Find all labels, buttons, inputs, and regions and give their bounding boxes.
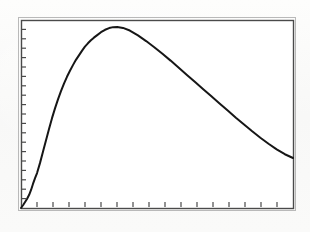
figure-container (0, 0, 310, 232)
plot-canvas (0, 0, 310, 232)
plot-frame (19, 18, 296, 211)
